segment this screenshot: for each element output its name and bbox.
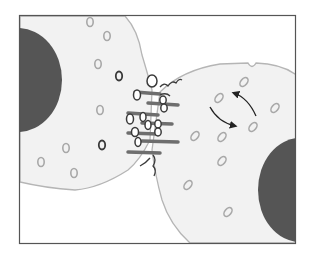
- cell-junction-diagram: [0, 0, 310, 254]
